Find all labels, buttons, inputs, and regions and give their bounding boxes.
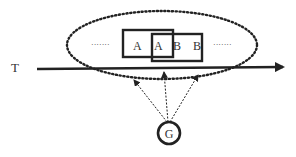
ellipsis-right: ······· [213,40,232,49]
dashed-arrow-right [170,75,198,122]
letter-a-1: A [133,39,142,53]
axis-label-t: T [11,60,19,75]
dashed-arrow-left [134,80,167,122]
diagram-canvas: T ······· ······· A A B B G [0,0,296,157]
letter-b-1: B [173,39,181,53]
ellipsis-left: ······· [91,40,110,49]
letter-a-2: A [154,39,163,53]
letter-b-2: B [193,39,201,53]
source-node-label: G [165,127,174,141]
time-axis-arrow [37,67,283,69]
